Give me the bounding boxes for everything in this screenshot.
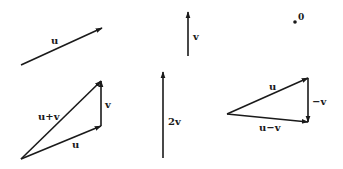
label-diff-neg-v: −v bbox=[312, 97, 326, 107]
label-diff-u-minus-v: u−v bbox=[259, 123, 280, 133]
sum-vector-u-plus-v-arrow bbox=[21, 81, 101, 159]
label-sum-v: v bbox=[105, 100, 111, 110]
label-sum-u-plus-v: u+v bbox=[38, 112, 59, 122]
label-v: v bbox=[193, 32, 199, 42]
label-u: u bbox=[51, 36, 58, 46]
label-sum-u: u bbox=[72, 140, 79, 150]
vector-u-arrow bbox=[21, 28, 102, 65]
origin-point bbox=[293, 20, 297, 24]
diff-vector-u-arrow bbox=[227, 78, 308, 114]
label-origin: 0 bbox=[298, 13, 304, 22]
sum-vector-u-arrow bbox=[21, 126, 101, 159]
diff-vector-u-minus-v-arrow bbox=[227, 114, 308, 122]
vector-diagram bbox=[0, 0, 343, 169]
label-2v: 2v bbox=[168, 117, 181, 127]
label-diff-u: u bbox=[269, 82, 276, 92]
